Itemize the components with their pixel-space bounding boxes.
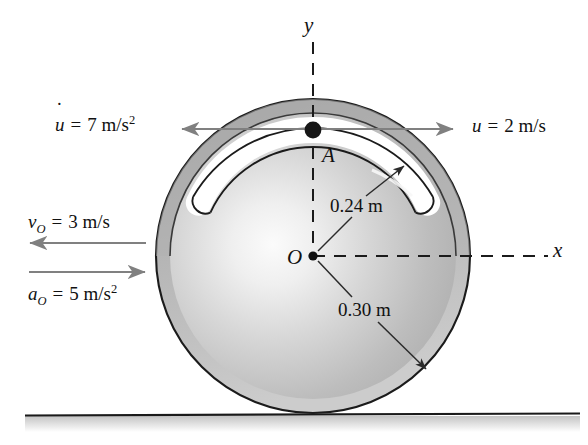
label-u-symbol: u bbox=[472, 115, 482, 136]
label-a-o-symbol: a bbox=[28, 283, 38, 304]
axis-label-x: x bbox=[553, 240, 562, 261]
label-u-unit: m/s bbox=[518, 115, 545, 136]
label-u-dot-equals: = bbox=[71, 114, 82, 135]
label-v-o: vO=3 m/s bbox=[28, 212, 110, 235]
label-a-o: aO=5 m/s2 bbox=[28, 283, 117, 308]
point-label-A: A bbox=[322, 145, 335, 166]
label-a-o-exponent: 2 bbox=[111, 282, 117, 296]
dimension-label-inner-radius: 0.24 m bbox=[330, 196, 383, 215]
label-v-o-subscript: O bbox=[36, 222, 45, 236]
label-u-value: 2 bbox=[504, 115, 514, 136]
label-u-dot-value: 7 bbox=[87, 114, 97, 135]
label-u-dot: u=7 m/s2 bbox=[55, 114, 135, 134]
physics-figure: u=7 m/s2 u=2 m/s vO=3 m/s aO=5 m/s2 y x … bbox=[0, 0, 588, 445]
label-v-o-equals: = bbox=[52, 211, 63, 232]
particle-A-marker bbox=[305, 122, 322, 139]
label-u-dot-symbol: u bbox=[55, 115, 65, 134]
label-u-dot-unit: m/s bbox=[101, 114, 128, 135]
label-a-o-subscript: O bbox=[38, 294, 47, 308]
label-v-o-unit: m/s bbox=[82, 211, 109, 232]
ground-line bbox=[25, 414, 580, 416]
label-v-o-value: 3 bbox=[68, 211, 78, 232]
dimension-label-outer-radius: 0.30 m bbox=[338, 300, 391, 319]
label-u-equals: = bbox=[488, 115, 499, 136]
label-u: u=2 m/s bbox=[472, 116, 546, 135]
ground-shadow bbox=[25, 416, 580, 432]
label-u-dot-exponent: 2 bbox=[129, 113, 135, 127]
point-label-O: O bbox=[287, 247, 302, 268]
label-a-o-unit: m/s bbox=[84, 283, 111, 304]
point-O-marker bbox=[308, 251, 317, 260]
label-a-o-equals: = bbox=[53, 283, 64, 304]
label-a-o-value: 5 bbox=[69, 283, 79, 304]
axis-label-y: y bbox=[304, 15, 313, 36]
